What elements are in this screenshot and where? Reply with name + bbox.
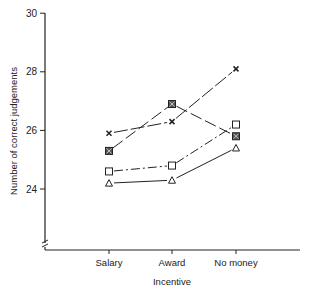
y-axis-label: Number of correct judgements: [8, 67, 19, 195]
square-marker-icon: [233, 121, 240, 128]
x-marker-icon: [107, 131, 112, 136]
series-line: [114, 166, 167, 171]
y-tick: 28: [26, 66, 45, 77]
x-axis: SalaryAwardNo money Incentive: [45, 250, 300, 287]
y-tick-label: 28: [26, 66, 38, 77]
series-line: [176, 72, 232, 118]
x-tick: Award: [159, 250, 186, 268]
line-chart: 24262830 Number of correct judgements Sa…: [0, 0, 314, 302]
x-tick: Salary: [96, 250, 123, 268]
series-line: [176, 106, 231, 134]
square-marker-icon: [169, 162, 176, 169]
y-axis: 24262830 Number of correct judgements: [8, 8, 48, 250]
square-x-marker-icon: [233, 133, 240, 140]
y-tick-label: 26: [26, 125, 38, 136]
y-tick-label: 24: [26, 184, 38, 195]
y-tick-label: 30: [26, 8, 38, 19]
series-line: [176, 127, 232, 163]
series-layer: [106, 66, 240, 186]
series-filled-square: [106, 101, 240, 155]
y-tick: 30: [26, 8, 45, 19]
square-x-marker-icon: [169, 101, 176, 108]
x-tick-label: No money: [214, 257, 258, 268]
axis-break-icon: [42, 240, 48, 247]
square-marker-icon: [106, 168, 113, 175]
x-tick: No money: [214, 250, 258, 268]
triangle-marker-icon: [233, 144, 240, 151]
x-tick-label: Salary: [96, 257, 123, 268]
y-tick: 26: [26, 125, 45, 136]
x-marker-icon: [234, 66, 239, 71]
square-x-marker-icon: [106, 147, 113, 154]
series-line: [114, 180, 167, 182]
x-axis-label: Incentive: [153, 276, 191, 287]
triangle-marker-icon: [106, 180, 113, 187]
x-marker-icon: [170, 119, 175, 124]
triangle-marker-icon: [169, 177, 176, 184]
series-line: [176, 150, 231, 178]
series-open-square: [106, 121, 240, 175]
series-line: [113, 107, 168, 148]
x-tick-label: Award: [159, 257, 186, 268]
y-tick: 24: [26, 184, 45, 195]
